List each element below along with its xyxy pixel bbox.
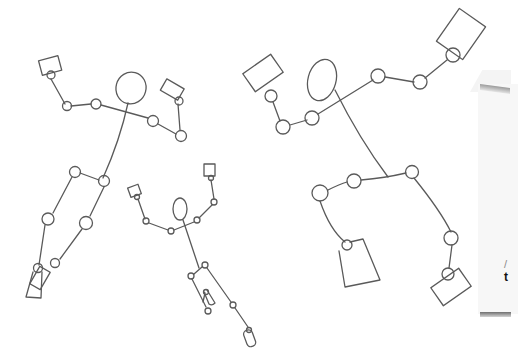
figure-right (243, 8, 486, 305)
hand-box (204, 164, 215, 176)
paper-shadow-bottom (480, 312, 511, 317)
foot-box (30, 266, 50, 289)
head-icon (112, 69, 149, 108)
paper-text-fragment: / (504, 258, 507, 270)
head-icon (173, 198, 187, 220)
figure-left (26, 56, 187, 298)
hand-box (436, 8, 485, 59)
head-icon (303, 56, 341, 104)
foot-box (431, 268, 471, 306)
foot-capsule (243, 329, 257, 348)
hand-box (243, 54, 283, 92)
hand-box (39, 56, 62, 76)
paper-text-fragment: t (504, 270, 508, 284)
paper-sheet-edge (478, 84, 518, 314)
figure-small-center (128, 164, 257, 348)
